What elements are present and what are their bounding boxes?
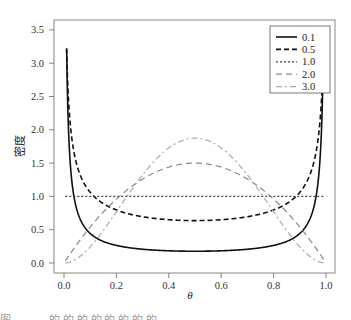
x-axis-title: θ [187,289,193,301]
y-tick-label: 3.5 [31,24,44,35]
y-axis-title: 密度 [13,135,26,157]
y-tick-label: 0.5 [31,224,44,235]
y-tick-label: 1.0 [31,191,44,202]
x-tick-label: 0.4 [162,280,176,291]
legend-box [270,26,330,93]
legend-label: 0.1 [302,32,315,43]
x-tick-label: 0.2 [110,280,123,291]
legend: 0.10.51.02.03.0 [270,26,330,93]
figure-caption: 图 ···· ·····的 的 的 的 的 的 的 的 [0,311,351,320]
x-tick-label: 0.8 [267,280,280,291]
x-tick-label: 0.0 [57,280,70,291]
legend-label: 3.0 [302,81,315,92]
y-tick-label: 2.5 [31,91,44,102]
y-tick-label: 3.0 [31,58,44,69]
x-tick-label: 0.6 [215,280,228,291]
legend-label: 2.0 [302,69,315,80]
curve-3-0 [65,138,324,263]
legend-label: 1.0 [302,56,315,67]
curve-2-0 [65,163,324,261]
y-tick-label: 1.5 [31,158,44,169]
x-axis: 0.00.20.40.60.81.0 [57,273,332,291]
legend-label: 0.5 [302,44,315,55]
x-tick-label: 1.0 [319,280,332,291]
beta-density-chart: 0.00.51.01.52.02.53.03.5 0.00.20.40.60.8… [0,0,351,320]
y-axis: 0.00.51.01.52.02.53.03.5 [31,24,54,268]
y-tick-label: 0.0 [31,258,44,269]
y-tick-label: 2.0 [31,124,44,135]
